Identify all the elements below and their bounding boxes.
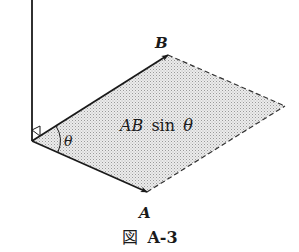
vector-a-label: A [137,204,151,222]
area-label-sin: sin [151,116,175,135]
caption-id: A-3 [146,228,177,247]
angle-label: θ [64,133,73,149]
parallelogram-diagram: θ B A AB sin θ 図 A-3 [0,0,299,252]
figure-caption: 図 A-3 [122,228,177,247]
caption-prefix: 図 [122,228,138,247]
area-label-theta: θ [183,116,193,135]
right-angle-diagonal [32,130,40,136]
vector-b-label: B [154,34,168,52]
area-label-ab: AB [118,116,144,135]
